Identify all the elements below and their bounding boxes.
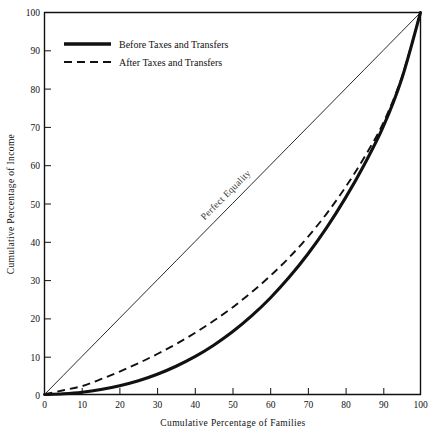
y-tick-label-90: 90 [31,46,41,56]
y-tick-label-0: 0 [35,391,40,401]
y-tick-label-70: 70 [31,123,41,133]
y-tick-label-40: 40 [31,238,41,248]
x-tick-label-40: 40 [191,400,201,410]
x-tick-label-50: 50 [228,400,238,410]
y-axis-title: Cumulative Percentage of Income [6,134,16,274]
x-tick-label-0: 0 [42,400,47,410]
y-tick-label-100: 100 [26,8,41,18]
x-tick-label-80: 80 [341,400,351,410]
legend-label-before-taxes: Before Taxes and Transfers [119,39,228,50]
chart-canvas: 100 90 80 70 60 50 40 30 20 10 0 [0,0,443,438]
y-tick-label-50: 50 [31,200,41,210]
x-tick-label-30: 30 [153,400,163,410]
x-tick-label-60: 60 [266,400,276,410]
y-tick-label-30: 30 [31,276,41,286]
x-tick-label-20: 20 [115,400,125,410]
lorenz-curve-figure: 100 90 80 70 60 50 40 30 20 10 0 [0,0,443,438]
legend-label-after-taxes: After Taxes and Transfers [119,57,222,68]
y-tick-label-20: 20 [31,314,41,324]
x-tick-label-90: 90 [379,400,389,410]
x-tick-label-100: 100 [413,400,428,410]
x-axis-title: Cumulative Percentage of Families [160,418,305,428]
y-tick-label-10: 10 [31,353,41,363]
y-tick-label-60: 60 [31,161,41,171]
x-tick-label-10: 10 [77,400,87,410]
y-tick-label-80: 80 [31,85,41,95]
x-tick-label-70: 70 [304,400,314,410]
